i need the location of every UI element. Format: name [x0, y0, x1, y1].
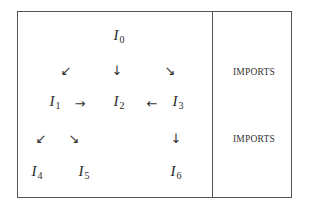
- node-i2: I2: [114, 94, 125, 113]
- imports-label-lower: IMPORTS: [233, 134, 275, 144]
- node-i5: I5: [79, 164, 90, 183]
- arrow-i3-to-i6-icon: ↓: [171, 132, 182, 145]
- arrow-i3-to-i2-icon: ←: [147, 97, 158, 110]
- node-i6: I6: [171, 164, 182, 183]
- node-i3: I3: [173, 94, 184, 113]
- arrow-i0-to-i3-icon: ↘: [165, 64, 176, 77]
- arrow-i0-to-i1-icon: ↙: [61, 64, 72, 77]
- node-i1: I1: [50, 94, 61, 113]
- node-i0: I0: [114, 28, 125, 47]
- arrow-i1-to-i2-icon: →: [75, 97, 86, 110]
- imports-label-upper: IMPORTS: [233, 67, 275, 77]
- arrow-i1-to-i4-icon: ↙: [36, 132, 47, 145]
- node-i4: I4: [32, 164, 43, 183]
- arrow-i1-to-i5-icon: ↘: [69, 132, 80, 145]
- arrow-i0-to-i2-icon: ↓: [112, 64, 123, 77]
- column-divider: [212, 11, 213, 198]
